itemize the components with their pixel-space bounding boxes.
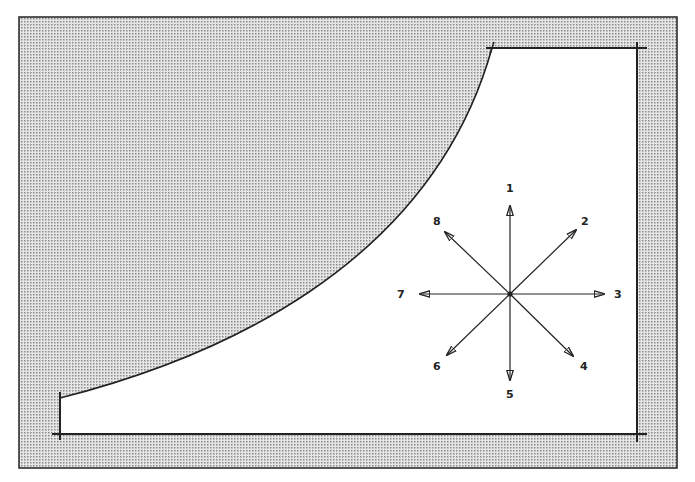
- label-3: 3: [614, 288, 622, 301]
- label-4: 4: [580, 360, 588, 373]
- label-5: 5: [506, 388, 514, 401]
- label-2: 2: [581, 215, 589, 228]
- label-6: 6: [433, 360, 441, 373]
- label-7: 7: [397, 288, 405, 301]
- label-8: 8: [433, 215, 441, 228]
- label-1: 1: [506, 182, 514, 195]
- compass-center: [508, 292, 512, 296]
- diagram-canvas: 1 2 3 4 5 6 7 8: [0, 0, 695, 482]
